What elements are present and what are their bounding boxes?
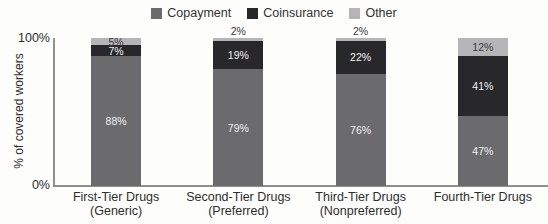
stacked-bar-chart: CopaymentCoinsuranceOther % of covered w… [0,0,548,224]
bar-column: 76%22%2% [300,38,422,186]
segment-value-label: 5% [109,37,124,47]
legend-label: Copayment [167,6,231,20]
bar-segment-other [336,38,386,41]
bar: 79%19%2% [213,38,263,186]
legend-swatch-copayment [151,8,162,19]
legend-swatch-coinsurance [247,8,258,19]
bar-segment-copayment: 76% [336,74,386,186]
x-axis-labels: First-Tier Drugs(Generic)Second-Tier Dru… [55,190,544,219]
x-axis-label: Fourth-Tier Drugs [422,190,544,219]
bar-segment-coinsurance: 22% [336,41,386,74]
legend-label: Coinsurance [263,6,333,20]
x-axis-label-line1: First-Tier Drugs [55,190,177,204]
legend-item-other: Other [349,6,396,20]
x-axis-label: Third-Tier Drugs(Nonpreferred) [300,190,422,219]
x-axis-label-line2: (Preferred) [177,204,299,218]
segment-value-label: 22% [350,52,371,62]
y-tick-0: 0% [2,178,50,192]
y-axis-title: % of covered workers [12,46,26,176]
x-axis-label: First-Tier Drugs(Generic) [55,190,177,219]
segment-value-label-above: 2% [213,25,263,37]
segment-value-label-above: 2% [336,25,386,37]
legend-label: Other [365,6,396,20]
legend-swatch-other [349,8,360,19]
bar-segment-copayment: 47% [458,116,508,186]
y-tick-100: 100% [2,31,50,45]
segment-value-label: 79% [228,123,249,133]
x-axis-label-line1: Third-Tier Drugs [300,190,422,204]
segment-value-label: 88% [106,116,127,126]
legend-item-copayment: Copayment [151,6,231,20]
bar-segment-coinsurance: 19% [213,41,263,69]
bar-segment-coinsurance: 41% [458,56,508,117]
segment-value-label: 47% [472,146,493,156]
segment-value-label: 41% [472,81,493,91]
x-axis-label-line2: (Nonpreferred) [300,204,422,218]
bar-segment-other [213,38,263,41]
legend: CopaymentCoinsuranceOther [0,6,548,20]
bar: 88%7%5% [91,38,141,186]
x-axis-label: Second-Tier Drugs(Preferred) [177,190,299,219]
segment-value-label: 12% [472,42,493,52]
bar-column: 79%19%2% [177,38,299,186]
bar-segment-other: 12% [458,38,508,56]
bar-column: 47%41%12% [422,38,544,186]
segment-value-label: 19% [228,50,249,60]
x-axis-label-line2: (Generic) [55,204,177,218]
x-axis-label-line1: Second-Tier Drugs [177,190,299,204]
bar-segment-copayment: 88% [91,56,141,186]
bar-segment-other: 5% [91,38,141,45]
bar: 47%41%12% [458,38,508,186]
bar-column: 88%7%5% [55,38,177,186]
legend-item-coinsurance: Coinsurance [247,6,333,20]
bar: 76%22%2% [336,38,386,186]
segment-value-label: 76% [350,125,371,135]
bar-segment-copayment: 79% [213,69,263,186]
x-axis-label-line1: Fourth-Tier Drugs [422,190,544,204]
plot-area: 88%7%5%79%19%2%76%22%2%47%41%12% [55,38,544,186]
